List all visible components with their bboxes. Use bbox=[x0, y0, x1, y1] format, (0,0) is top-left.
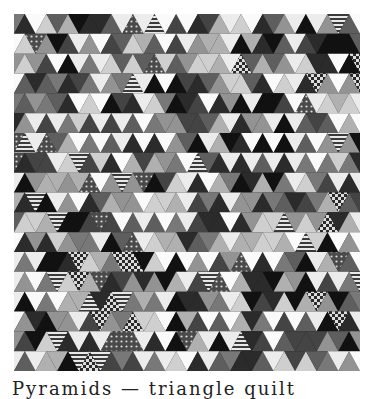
caption-text: Pyramids — triangle quilt bbox=[12, 378, 296, 399]
triangle-grid bbox=[14, 14, 360, 371]
triangle-quilt-pattern bbox=[14, 14, 360, 371]
quilt-image bbox=[14, 14, 360, 371]
